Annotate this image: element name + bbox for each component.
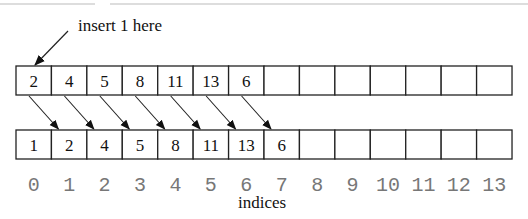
shift-arrow-icon <box>242 96 271 129</box>
bottom-array-cell-value: 4 <box>100 136 109 155</box>
index-label: 13 <box>482 174 506 197</box>
top-array-cell: 4 <box>51 66 86 95</box>
top-array-cell-value: 8 <box>136 72 145 91</box>
bottom-array-cell <box>441 130 476 159</box>
bottom-array-cell-value: 13 <box>238 136 255 155</box>
top-array-cell <box>477 66 512 95</box>
index-label: 12 <box>447 174 471 197</box>
top-array-cell-value: 2 <box>29 72 38 91</box>
bottom-array-cell <box>299 130 334 159</box>
bottom-array-cell: 8 <box>158 130 193 159</box>
bottom-array-cell-value: 11 <box>203 136 219 155</box>
top-array-cell: 13 <box>193 66 228 95</box>
bottom-array-cell <box>335 130 370 159</box>
index-label: 0 <box>28 174 40 197</box>
top-array-cell <box>406 66 441 95</box>
top-array-cell-value: 11 <box>167 72 183 91</box>
top-array-cell: 2 <box>16 66 51 95</box>
bottom-array-cell-value: 2 <box>65 136 74 155</box>
index-label: 9 <box>347 174 359 197</box>
top-array-cell-value: 5 <box>100 72 109 91</box>
shift-arrow-icon <box>135 96 164 129</box>
top-array-cell <box>441 66 476 95</box>
top-array-cell-value: 6 <box>242 72 251 91</box>
index-label: 3 <box>134 174 146 197</box>
bottom-array-cell <box>477 130 512 159</box>
top-array-cell: 8 <box>122 66 157 95</box>
bottom-array-cell-value: 6 <box>277 136 286 155</box>
bottom-array-cell: 1 <box>16 130 51 159</box>
bottom-array: 1245811136 <box>16 130 512 159</box>
index-label: 2 <box>99 174 111 197</box>
top-array-cell <box>335 66 370 95</box>
index-label: 5 <box>205 174 217 197</box>
shift-arrows <box>29 96 271 129</box>
index-label: 4 <box>169 174 181 197</box>
bottom-array-cell-value: 8 <box>171 136 180 155</box>
bottom-array-cell: 4 <box>87 130 122 159</box>
top-array-cell: 11 <box>158 66 193 95</box>
index-label: 11 <box>411 174 435 197</box>
indices-label: indices <box>238 193 286 212</box>
insert-annotation: insert 1 here <box>35 16 162 65</box>
top-array-cell: 5 <box>87 66 122 95</box>
shift-arrow-icon <box>206 96 235 129</box>
bottom-array-cell-value: 1 <box>29 136 38 155</box>
bottom-array-cell <box>370 130 405 159</box>
bottom-array-cell: 5 <box>122 130 157 159</box>
shift-arrow-icon <box>100 96 129 129</box>
bottom-array-cell: 11 <box>193 130 228 159</box>
shift-arrow-icon <box>171 96 200 129</box>
bottom-array-cell-value: 5 <box>136 136 145 155</box>
insert-annotation-text: insert 1 here <box>78 16 162 35</box>
bottom-array-cell: 2 <box>51 130 86 159</box>
top-array-cell <box>370 66 405 95</box>
top-array: 245811136 <box>16 66 512 95</box>
top-array-cell-value: 13 <box>202 72 219 91</box>
index-label: 10 <box>376 174 400 197</box>
top-array-cell-value: 4 <box>65 72 74 91</box>
insert-arrow-icon <box>35 31 68 65</box>
index-label: 1 <box>63 174 75 197</box>
top-array-cell: 6 <box>229 66 264 95</box>
index-label: 8 <box>311 174 323 197</box>
top-array-cell <box>264 66 299 95</box>
bottom-array-cell <box>406 130 441 159</box>
bottom-array-cell: 13 <box>229 130 264 159</box>
top-array-cell <box>299 66 334 95</box>
shift-arrow-icon <box>64 96 93 129</box>
shift-arrow-icon <box>29 96 58 129</box>
array-insertion-diagram: insert 1 here 245811136 1245811136 01234… <box>0 0 528 219</box>
bottom-array-cell: 6 <box>264 130 299 159</box>
